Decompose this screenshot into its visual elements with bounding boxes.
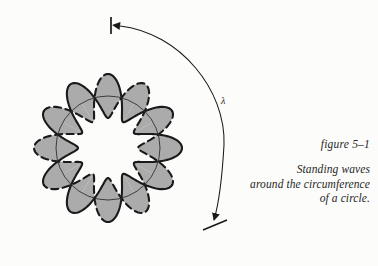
- standing-wave-figure: [0, 0, 378, 266]
- caption-line-2: around the circumference: [220, 177, 370, 192]
- figure-page: λ figure 5–1 Standing waves around the c…: [0, 0, 378, 266]
- caption-line-3: of a circle.: [220, 191, 370, 206]
- figure-number: figure 5–1: [220, 138, 370, 151]
- figure-caption: figure 5–1 Standing waves around the cir…: [220, 138, 370, 206]
- wavelength-end-tick: [203, 220, 227, 230]
- wavelength-symbol: λ: [221, 95, 225, 106]
- wave-lobes-generated: [31, 69, 185, 227]
- caption-line-1: Standing waves: [220, 162, 370, 177]
